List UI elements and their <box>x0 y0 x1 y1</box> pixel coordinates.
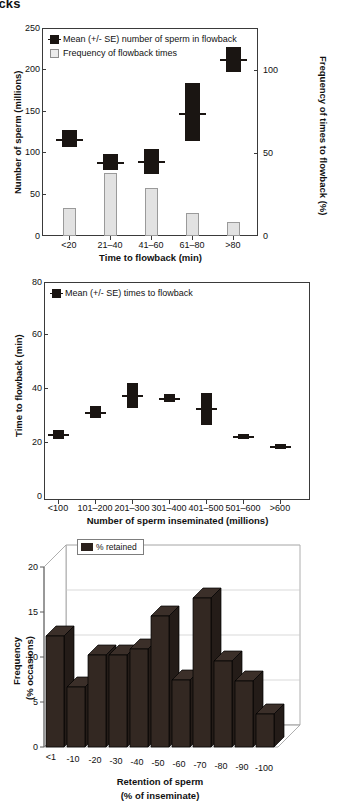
chart3-y-axis-title: Frequency <box>12 637 23 685</box>
chart1-xtick-1: 21–40 <box>88 241 132 250</box>
chart1-ytick-0: 0 <box>16 232 40 241</box>
chart1-legend-item-freq: Frequency of flowback times <box>50 47 237 59</box>
chart1-y2tickmark-50 <box>254 153 258 154</box>
bar-swatch-icon <box>81 543 93 551</box>
chart2-legend-item-time: Mean (+/- SE) times to flowback <box>52 287 193 299</box>
chart2-y-axis-title: Time to flowback (min) <box>14 334 25 437</box>
chart1-errmean-1 <box>97 162 124 164</box>
errorbar-marker-icon <box>50 35 59 44</box>
chart1-xtick-0: <20 <box>47 241 91 250</box>
chart1-y2tickmark-100 <box>254 70 258 71</box>
chart3-legend-label-0: % retained <box>96 542 137 552</box>
chart1-ytickmark-200 <box>42 69 46 70</box>
chart2-xtick-0: <100 <box>38 504 78 513</box>
chart1-errmean-2 <box>138 161 165 163</box>
chart1-freq-bar-3 <box>186 213 199 236</box>
chart2-errmean-6 <box>270 446 291 448</box>
chart2-errmean-5 <box>233 436 254 438</box>
figure-retention-frequency: 0 5 10 15 20 <1 -10 -20 -30 -40 -50 -60 … <box>0 525 338 805</box>
chart2-errmean-0 <box>48 434 69 436</box>
chart1-legend-label-1: Frequency of flowback times <box>63 47 177 59</box>
chart2-legend: Mean (+/- SE) times to flowback <box>52 287 193 301</box>
chart1-ytickmark-50 <box>42 194 46 195</box>
chart2-xtick-1: 101–200 <box>75 504 115 513</box>
chart3-bar-10 <box>256 704 284 747</box>
bar-swatch-icon <box>50 49 59 58</box>
chart3-y-axis-subtitle: (% occasions) <box>25 636 36 700</box>
chart1-xtick-4: >80 <box>211 241 255 250</box>
chart3-x-axis-subtitle: (% of inseminate) <box>85 791 235 802</box>
chart1-freq-bar-1 <box>104 173 117 236</box>
chart2-errmean-1 <box>85 412 106 414</box>
chart3-ytick-15: 15 <box>14 608 38 617</box>
chart1-y2tick-0: 0 <box>263 232 268 241</box>
chart1-freq-bar-0 <box>63 208 76 236</box>
page-title: rbacks <box>0 0 21 11</box>
errorbar-marker-icon <box>52 289 61 298</box>
chart1-errmean-3 <box>179 113 206 115</box>
chart2-xtick-4: 401–500 <box>186 504 226 513</box>
chart3-ytick-0: 0 <box>14 743 38 752</box>
chart1-ytickmark-100 <box>42 152 46 153</box>
chart1-xtick-2: 41–60 <box>129 241 173 250</box>
chart1-y2tick-50: 50 <box>263 149 273 158</box>
chart2-xtick-2: 201–300 <box>112 504 152 513</box>
chart1-freq-bar-4 <box>227 222 240 236</box>
chart2-errmean-4 <box>196 408 217 410</box>
chart3-xtick-10: -100 <box>247 764 281 773</box>
chart1-y2tick-100: 100 <box>263 66 278 75</box>
chart2-xtick-5: 501–600 <box>223 504 263 513</box>
chart3-ytick-20: 20 <box>14 563 38 572</box>
chart2-plot-area <box>44 282 310 500</box>
chart1-errbox-3 <box>185 83 200 141</box>
chart2-legend-label-0: Mean (+/- SE) times to flowback <box>65 287 193 299</box>
figure-sperm-vs-flowback-time: 250 200 150 100 50 0 100 50 0 <20 21–40 … <box>0 14 338 266</box>
chart3-legend: % retained <box>77 539 144 555</box>
chart1-ytick-250: 250 <box>16 24 40 33</box>
chart1-errmean-0 <box>56 139 83 141</box>
chart2-errmean-3 <box>159 398 180 400</box>
chart2-ytick-20: 20 <box>18 438 42 447</box>
chart1-legend: Mean (+/- SE) number of sperm in flowbac… <box>50 33 237 61</box>
chart1-legend-item-sperm: Mean (+/- SE) number of sperm in flowbac… <box>50 33 237 45</box>
figure-flowback-time-vs-sperm: 80 60 40 20 0 <100 101–200 201–300 301–4… <box>0 272 338 522</box>
chart3-x-axis-title: Retention of sperm <box>85 777 235 788</box>
chart2-errmean-2 <box>122 395 143 397</box>
chart1-freq-bar-2 <box>145 188 158 236</box>
chart1-xtick-3: 61–80 <box>170 241 214 250</box>
chart1-y2-axis-title: Frequency of times to flowback (%) <box>317 56 328 215</box>
chart1-legend-label-0: Mean (+/- SE) number of sperm in flowbac… <box>63 33 237 45</box>
chart1-ytickmark-150 <box>42 111 46 112</box>
chart1-y-axis-title: Number of sperm (millions) <box>13 70 24 194</box>
chart2-ytick-80: 80 <box>18 278 42 287</box>
chart2-ytickmark-20 <box>44 442 48 443</box>
chart2-ytickmark-60 <box>44 334 48 335</box>
chart2-xtick-3: 301–400 <box>149 504 189 513</box>
chart2-xtick-6: >600 <box>260 504 300 513</box>
chart2-ytick-0: 0 <box>18 492 42 501</box>
chart1-x-axis-title: Time to flowback (min) <box>63 253 238 264</box>
chart2-ytickmark-40 <box>44 388 48 389</box>
